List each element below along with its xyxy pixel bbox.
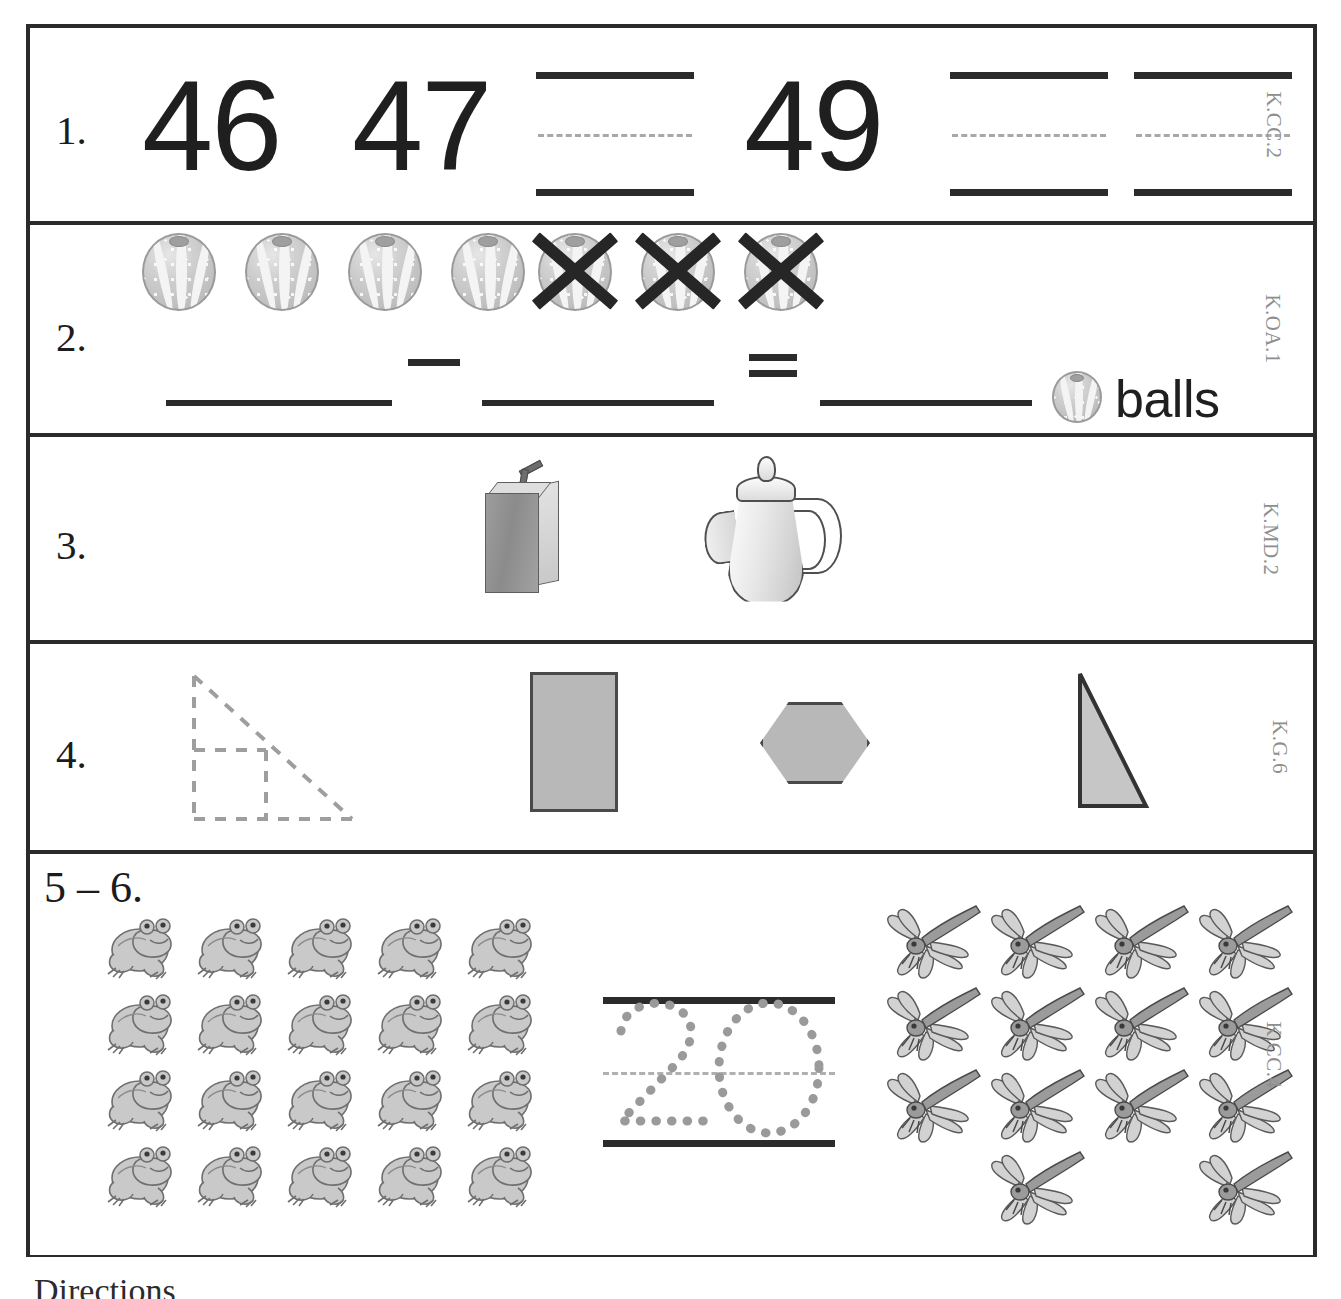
frog-icon (460, 908, 550, 984)
standard-code-2: K.OA.1 (1260, 294, 1285, 364)
dragonfly-group (886, 904, 1302, 1232)
equation-blank-minuend[interactable] (166, 400, 392, 406)
frog-icon (280, 1060, 370, 1136)
guide-line-top (536, 72, 694, 79)
problem-row-3: 3. K.MD.2 (30, 437, 1313, 644)
dragonfly-icon (1198, 1068, 1302, 1150)
frog-icon (370, 1136, 460, 1212)
directions-label: Directions (34, 1272, 176, 1299)
beach-ball-icon-crossed (641, 233, 715, 311)
dragonfly-icon (1198, 1150, 1302, 1232)
frog-icon (460, 1060, 550, 1136)
frog-icon (190, 1060, 280, 1136)
worksheet-table: 1. 46 47 49 K.CC.2 2. (26, 24, 1317, 1257)
frog-icon (190, 1136, 280, 1212)
beach-ball-icon (245, 233, 319, 311)
problem-row-1: 1. 46 47 49 K.CC.2 (30, 28, 1313, 225)
beach-ball-unit-icon (1052, 371, 1102, 423)
problem-row-5-6: 5 – 6. (30, 854, 1313, 1255)
frog-group (100, 908, 550, 1212)
frog-icon (280, 984, 370, 1060)
problem-row-2: 2. (30, 225, 1313, 437)
sequence-blank-2[interactable] (950, 72, 1108, 196)
frog-icon (100, 1136, 190, 1212)
row-number-3: 3. (56, 521, 87, 569)
frog-icon (190, 984, 280, 1060)
standard-code-4: K.G.6 (1268, 720, 1293, 774)
dragonfly-icon (1094, 904, 1198, 986)
juice-box-icon[interactable] (485, 479, 561, 595)
dragonfly-icon (1198, 986, 1302, 1068)
dashed-target-shape (178, 664, 378, 832)
sequence-number-49: 49 (744, 62, 882, 190)
dragonfly-icon (990, 1068, 1094, 1150)
dotted-digits-20 (603, 997, 835, 1147)
frog-icon (100, 984, 190, 1060)
dragonfly-icon (886, 986, 990, 1068)
frog-icon (460, 984, 550, 1060)
frog-icon (100, 1060, 190, 1136)
guide-line-bottom (950, 189, 1108, 196)
dragonfly-icon (990, 1150, 1094, 1232)
dragonfly-icon (990, 904, 1094, 986)
beach-ball-icon-crossed (744, 233, 818, 311)
equation-blank-subtrahend[interactable] (482, 400, 714, 406)
beach-ball-icon (142, 233, 216, 311)
triangle-shape[interactable] (1050, 666, 1160, 816)
frog-icon (370, 984, 460, 1060)
row-number-2: 2. (56, 313, 87, 361)
row-number-4: 4. (56, 730, 87, 778)
beach-ball-icon-crossed (538, 233, 612, 311)
frog-icon (370, 1060, 460, 1136)
frog-icon (100, 908, 190, 984)
teapot-icon[interactable] (702, 450, 852, 613)
frog-icon (190, 908, 280, 984)
sequence-number-46: 46 (142, 62, 280, 190)
frog-icon (370, 908, 460, 984)
dragonfly-icon (990, 986, 1094, 1068)
standard-code-1: K.CC.2 (1261, 91, 1286, 158)
guide-line-bottom (1134, 189, 1292, 196)
equation-blank-difference[interactable] (820, 400, 1032, 406)
dragonfly-icon (886, 904, 990, 986)
beach-ball-icon (348, 233, 422, 311)
guide-line-top (950, 72, 1108, 79)
equals-operator-icon (749, 354, 797, 384)
dragonfly-icon (1198, 904, 1302, 986)
frog-icon (460, 1136, 550, 1212)
rectangle-shape[interactable] (530, 672, 618, 812)
guide-line-bottom (536, 189, 694, 196)
standard-code-3: K.MD.2 (1258, 502, 1283, 575)
sequence-blank-1[interactable] (536, 72, 694, 196)
frog-icon (280, 908, 370, 984)
dragonfly-icon (886, 1068, 990, 1150)
unit-label-balls: balls (1115, 369, 1219, 429)
guide-line-middle (952, 134, 1106, 137)
guide-line-top (1134, 72, 1292, 79)
hexagon-shape[interactable] (760, 702, 870, 784)
sequence-number-47: 47 (352, 62, 490, 190)
row-number-1: 1. (56, 106, 87, 154)
number-trace-20[interactable] (603, 997, 835, 1147)
standard-code-5-6: K.CC.4 (1261, 1021, 1286, 1088)
worksheet-page: 1. 46 47 49 K.CC.2 2. (0, 0, 1341, 1299)
grid-spacer (1094, 1150, 1198, 1232)
beach-ball-icon (451, 233, 525, 311)
dragonfly-icon (1094, 1068, 1198, 1150)
grid-spacer (886, 1150, 990, 1232)
frog-icon (280, 1136, 370, 1212)
guide-line-middle (538, 134, 692, 137)
row-number-5-6: 5 – 6. (44, 862, 143, 913)
dragonfly-icon (1094, 986, 1198, 1068)
minus-operator-icon (408, 359, 460, 366)
problem-row-4: 4. K.G.6 (30, 644, 1313, 854)
